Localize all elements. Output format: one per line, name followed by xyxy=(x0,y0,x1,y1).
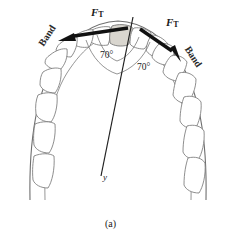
tooth xyxy=(34,122,56,153)
tooth xyxy=(40,68,61,93)
angle-label-right: 70° xyxy=(137,62,150,72)
tooth xyxy=(45,49,67,70)
tooth xyxy=(180,96,201,129)
tooth xyxy=(33,154,55,188)
force-label-left: FT xyxy=(91,6,104,19)
arrowhead-left xyxy=(58,33,76,41)
figure-caption: (a) xyxy=(105,218,116,229)
force-label-right: FT xyxy=(166,16,179,29)
tooth xyxy=(184,157,205,193)
tooth xyxy=(36,93,58,122)
angle-label-left: 70° xyxy=(100,50,113,60)
dental-arch-diagram xyxy=(0,0,236,244)
y-axis-label: y xyxy=(103,172,107,182)
tooth xyxy=(183,125,204,160)
teeth-left xyxy=(33,37,78,188)
